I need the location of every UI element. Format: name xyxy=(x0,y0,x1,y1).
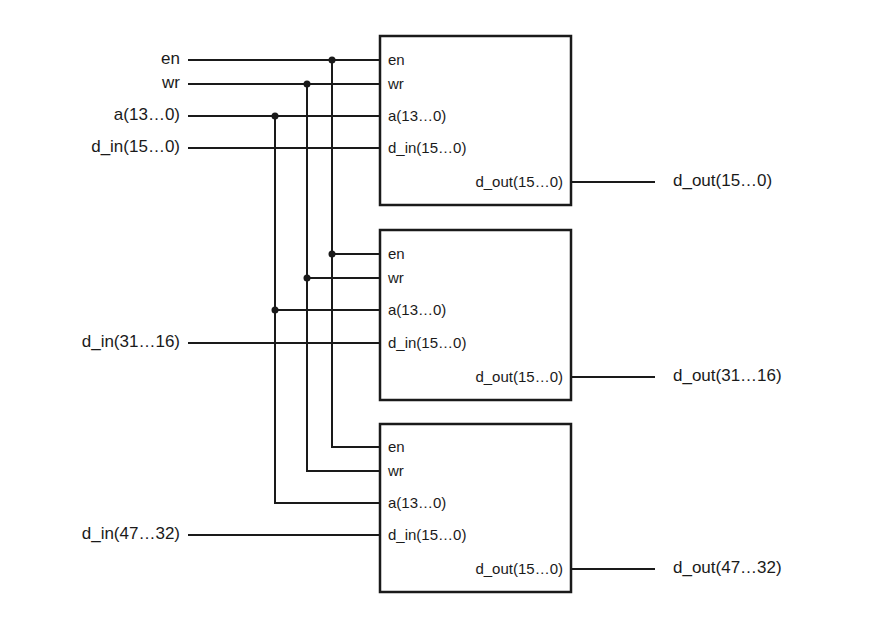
pin-en: en xyxy=(388,438,405,456)
pin-d-out: d_out(15…0) xyxy=(420,173,563,191)
pin-en: en xyxy=(388,245,405,263)
output-label-d-out-2: d_out(47…32) xyxy=(673,558,782,578)
pin-wr: wr xyxy=(388,269,404,287)
input-label-d-in-2: d_in(47…32) xyxy=(10,524,180,544)
junction-dot xyxy=(272,113,279,120)
pin-a: a(13…0) xyxy=(388,107,446,125)
input-label-en: en xyxy=(60,49,180,69)
pin-d-out: d_out(15…0) xyxy=(420,560,563,578)
pin-en: en xyxy=(388,51,405,69)
output-label-d-out-1: d_out(31…16) xyxy=(673,366,782,386)
pin-d-out: d_out(15…0) xyxy=(420,368,563,386)
pin-wr: wr xyxy=(388,75,404,93)
junction-dot xyxy=(272,307,279,314)
junction-dot xyxy=(304,81,311,88)
pin-d-in: d_in(15…0) xyxy=(388,526,466,544)
pin-a: a(13…0) xyxy=(388,494,446,512)
input-label-d-in-1: d_in(31…16) xyxy=(10,332,180,352)
input-label-a: a(13…0) xyxy=(40,105,180,125)
input-label-wr: wr xyxy=(60,73,180,93)
junction-dot xyxy=(329,251,336,258)
input-label-d-in-0: d_in(15…0) xyxy=(20,137,180,157)
pin-a: a(13…0) xyxy=(388,301,446,319)
pin-wr: wr xyxy=(388,462,404,480)
output-label-d-out-0: d_out(15…0) xyxy=(673,171,772,191)
pin-d-in: d_in(15…0) xyxy=(388,334,466,352)
pin-d-in: d_in(15…0) xyxy=(388,139,466,157)
junction-dot xyxy=(304,275,311,282)
junction-dot xyxy=(329,57,336,64)
